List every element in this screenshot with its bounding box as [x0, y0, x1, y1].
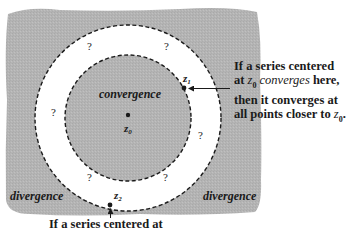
center-point-z0: [126, 113, 130, 117]
question-mark: ?: [51, 106, 56, 118]
note-line: then it converges at: [234, 93, 361, 107]
note-line: all points closer to z0.: [234, 107, 361, 127]
question-mark: ?: [198, 129, 203, 141]
divergence-note: If a series centered at: [49, 217, 249, 228]
convergence-note: If a series centered at z0 converges her…: [234, 59, 361, 126]
question-mark: ?: [163, 171, 168, 183]
note-line: If a series centered at: [49, 217, 249, 228]
point-z1: [182, 86, 187, 91]
convergence-label: convergence: [99, 87, 162, 101]
divergence-label-left: divergence: [10, 189, 64, 203]
note-line: at z0 converges here,: [234, 73, 361, 93]
question-mark: ?: [87, 40, 92, 52]
question-mark: ?: [87, 171, 92, 183]
note-line: If a series centered: [234, 59, 361, 73]
divergence-label-right: divergence: [203, 189, 257, 203]
question-mark: ?: [164, 40, 169, 52]
point-z2: [108, 203, 113, 208]
